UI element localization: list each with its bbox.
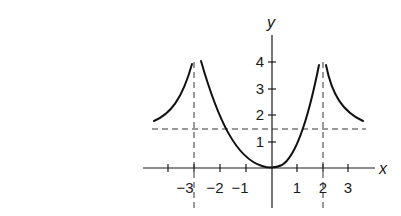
x-tick-label: 1 xyxy=(293,179,301,196)
y-tick-label: 1 xyxy=(256,133,264,150)
function-graph: y x −3 −2 −1 1 2 3 4 3 2 1 xyxy=(0,0,401,216)
x-axis-label: x xyxy=(378,160,388,177)
y-tick-label: 4 xyxy=(256,53,264,70)
x-tick-label: −1 xyxy=(231,179,248,196)
y-axis-label: y xyxy=(266,14,276,31)
right-branch-curve xyxy=(326,65,363,121)
x-tick-label: 3 xyxy=(344,179,352,196)
x-tick-label: −2 xyxy=(206,179,223,196)
left-branch-curve xyxy=(154,64,192,121)
x-tick-label: 2 xyxy=(319,179,327,196)
y-tick-label: 2 xyxy=(256,106,264,123)
x-tick-label: −3 xyxy=(176,179,193,196)
y-tick-label: 3 xyxy=(256,80,264,97)
